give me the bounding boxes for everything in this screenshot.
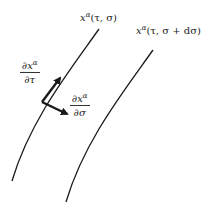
curve-label-1: xα(τ, σ) [80,12,117,23]
fraction-denominator: ∂σ [74,106,86,118]
curve-sigma-plus-dsigma [66,50,153,202]
label-args: (τ, σ) [90,12,117,23]
curve-label-2: xα(τ, σ + dσ) [136,25,201,36]
label-dx-dtau: ∂xα ∂τ [20,60,40,85]
arrow-dx-dsigma [42,102,67,114]
fraction-numerator: ∂xα [20,60,40,73]
fraction-denominator: ∂τ [24,73,35,85]
fraction-numerator: ∂xα [70,93,90,106]
label-dx-dsigma: ∂xα ∂σ [70,93,90,118]
label-args: (τ, σ + dσ) [146,25,200,36]
